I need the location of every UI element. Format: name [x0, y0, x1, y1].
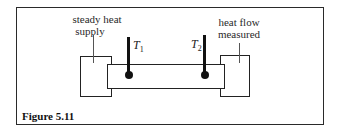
- t2-symbol: T: [191, 37, 198, 51]
- t2-label: T2: [191, 37, 202, 53]
- heat-supply-label-line2: supply: [70, 25, 110, 37]
- heat-supply-label-line1: steady heat: [70, 13, 124, 25]
- t1-symbol: T: [133, 38, 140, 52]
- probe-t1-contact-dot: [125, 71, 133, 79]
- probe-t2-contact-dot: [201, 71, 209, 79]
- right-label-leader: [239, 43, 240, 63]
- t1-label: T1: [133, 38, 144, 54]
- heat-flow-label-line2: measured: [215, 28, 263, 40]
- thermometer-probe-t1: [127, 37, 130, 75]
- t2-subscript: 2: [198, 44, 202, 53]
- figure-caption: Figure 5.11: [22, 110, 74, 122]
- t1-subscript: 1: [140, 45, 144, 54]
- thermometer-probe-t2: [203, 35, 206, 75]
- heat-flow-label-line1: heat flow: [215, 16, 263, 28]
- left-label-leader: [93, 35, 94, 63]
